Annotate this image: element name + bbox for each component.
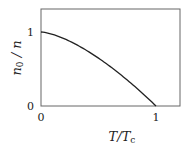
x-tick-1: 1	[153, 111, 160, 124]
x-axis-label: T/Tc	[109, 129, 136, 145]
y-tick-0: 0	[27, 100, 34, 113]
y-axis-label: n0 / n	[9, 40, 25, 75]
y-tick-1: 1	[27, 26, 34, 39]
chart: 1 0 0 1 T/Tc n0 / n	[0, 0, 191, 150]
plot-frame	[41, 9, 180, 106]
condensate-fraction-curve	[41, 32, 156, 106]
x-tick-0: 0	[38, 111, 45, 124]
